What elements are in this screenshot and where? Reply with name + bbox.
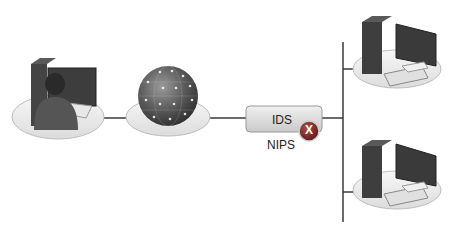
close-icon: X bbox=[303, 123, 315, 137]
network-diagram bbox=[0, 0, 461, 232]
nips-label: NIPS bbox=[267, 138, 295, 152]
computer-node-2 bbox=[353, 140, 441, 209]
user-workstation-node bbox=[12, 58, 104, 139]
ids-label: IDS bbox=[272, 113, 292, 127]
internet-globe-node bbox=[126, 66, 210, 136]
computer-node-1 bbox=[353, 16, 441, 88]
